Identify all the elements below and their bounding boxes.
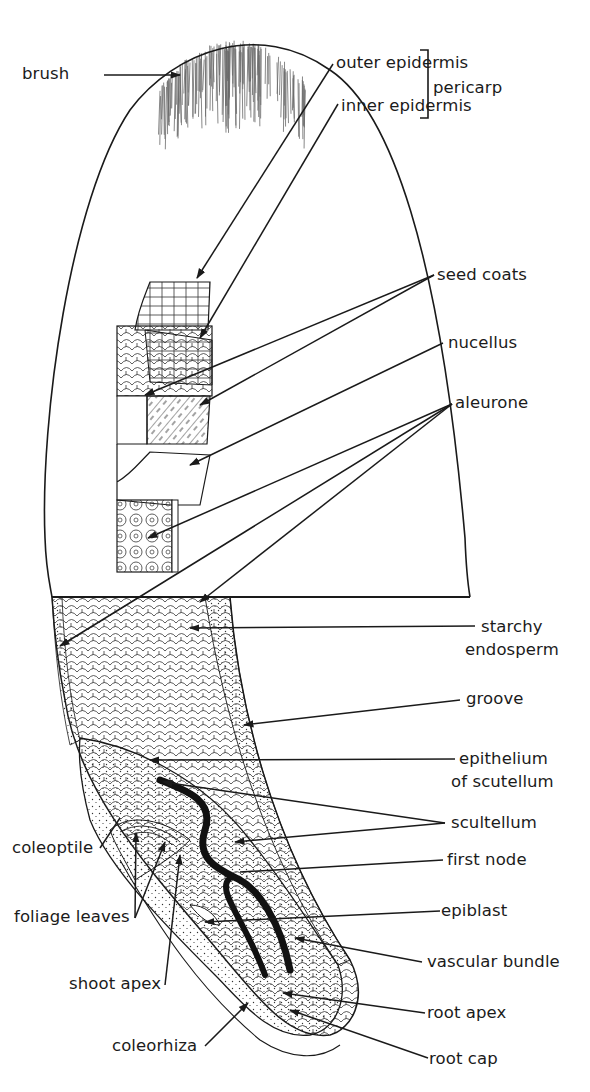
brush-hair <box>249 43 250 110</box>
label-inner-epidermis: inner epidermis <box>341 96 472 115</box>
brush-hair <box>298 79 299 136</box>
wheat-grain-diagram <box>0 0 590 1092</box>
label-foliage-leaves: foliage leaves <box>14 907 130 926</box>
brush-hair <box>180 64 181 122</box>
label-brush: brush <box>22 64 69 83</box>
brush-hairs <box>159 41 306 150</box>
label-epithelium: epithelium <box>459 749 548 769</box>
label-coleoptile: coleoptile <box>12 838 93 857</box>
label-epiblast: epiblast <box>441 901 507 920</box>
brush-hair <box>172 73 173 108</box>
label-root-cap: root cap <box>429 1049 498 1068</box>
brush-hair <box>161 86 162 120</box>
label-nucellus: nucellus <box>448 333 517 352</box>
brush-hair <box>216 44 217 101</box>
brush-hair <box>203 60 204 91</box>
label-endosperm: endosperm <box>465 640 559 660</box>
brush-hair <box>165 87 166 149</box>
brush-hair <box>280 61 281 95</box>
grain-side-lower <box>45 538 52 597</box>
label-starchy: starchy <box>481 617 543 637</box>
brush-hair <box>193 60 194 117</box>
brush-hair <box>189 63 190 106</box>
label-root-apex: root apex <box>427 1003 506 1022</box>
label-first-node: first node <box>447 850 527 869</box>
brush-hair <box>223 49 224 122</box>
label-aleurone: aleurone <box>455 393 528 412</box>
label-pericarp: pericarp <box>433 78 502 97</box>
brush-hair <box>281 65 282 117</box>
brush-hair <box>222 48 223 115</box>
label-seed-coats: seed coats <box>437 265 527 284</box>
brush-hair <box>244 44 245 120</box>
label-outer-epidermis: outer epidermis <box>336 53 468 72</box>
brush-hair <box>259 51 260 127</box>
brush-hair <box>212 53 213 111</box>
label-vascular-bundle: vascular bundle <box>427 952 560 971</box>
label-coleorhiza: coleorhiza <box>112 1036 197 1055</box>
brush-hair <box>201 56 202 92</box>
label-shoot-apex: shoot apex <box>69 974 161 993</box>
label-scutellum: scultellum <box>451 813 537 832</box>
brush-hair <box>247 49 248 106</box>
brush-hair <box>287 71 288 123</box>
tissue-block <box>117 282 212 572</box>
label-of-scutellum: of scutellum <box>451 772 554 792</box>
brush-hair <box>265 48 266 84</box>
brush-hair <box>290 69 291 114</box>
label-groove: groove <box>466 689 524 708</box>
brush-hair <box>277 62 278 101</box>
